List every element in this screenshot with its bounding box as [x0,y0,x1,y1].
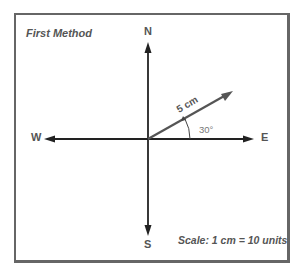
angle-label: 30° [199,124,214,135]
angle-arc [185,119,190,139]
west-arrowhead-icon [44,136,55,143]
north-arrowhead-icon [145,42,152,53]
south-arrowhead-icon [145,225,152,236]
compass-diagram: 5 cm 30° [0,0,307,273]
vector-arrowhead-icon [221,91,233,101]
east-arrowhead-icon [243,136,254,143]
